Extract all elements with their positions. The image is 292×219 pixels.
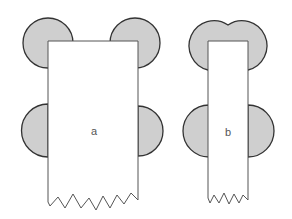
diagram-canvas: a b xyxy=(0,0,292,219)
panel-b-label: b xyxy=(225,126,231,138)
panel-a-label: a xyxy=(91,125,98,137)
panel-a: a xyxy=(22,18,164,210)
panel-b-bottom-right-lobe xyxy=(248,105,274,157)
panel-b-bottom-left-lobe xyxy=(183,105,209,157)
panel-a-bottom-right-lobe xyxy=(138,106,163,156)
panel-a-bottom-left-lobe xyxy=(22,104,48,157)
panel-b: b xyxy=(183,21,274,204)
panel-b-tissue-rectangle xyxy=(208,41,248,204)
